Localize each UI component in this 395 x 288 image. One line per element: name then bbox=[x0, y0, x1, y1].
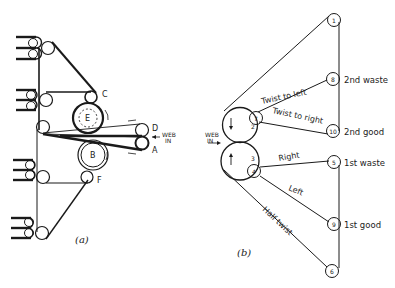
node-10: 10 bbox=[329, 128, 337, 135]
web-path-diagram: C E D B A F WEB IN (a) bbox=[0, 0, 395, 288]
output-label-1st-waste: 1st waste bbox=[344, 158, 385, 168]
panel-a bbox=[11, 37, 160, 240]
node-6: 6 bbox=[330, 268, 334, 275]
roller-label-f: F bbox=[97, 176, 102, 185]
output-label-2nd-good: 2nd good bbox=[344, 127, 384, 137]
roller-label-d: D bbox=[152, 124, 158, 133]
path-label-twist-right: Twist to right bbox=[271, 106, 324, 126]
path-label-twist-left: Twist to left bbox=[260, 88, 308, 107]
output-label-1st-good: 1st good bbox=[344, 220, 381, 230]
reel-stack-3 bbox=[13, 160, 35, 180]
panel-b bbox=[208, 14, 341, 278]
node-9: 9 bbox=[332, 221, 336, 228]
web-in-label-a-line2: IN bbox=[165, 137, 171, 144]
web-in-label-b-line2: IN bbox=[207, 137, 213, 144]
output-label-2nd-waste: 2nd waste bbox=[344, 75, 388, 85]
roller-label-b: B bbox=[90, 151, 96, 160]
node-3: 3 bbox=[251, 155, 255, 162]
roller-label-e: E bbox=[85, 114, 90, 123]
reel-stack-4 bbox=[11, 218, 33, 238]
node-2: 2 bbox=[251, 123, 255, 130]
roller-label-c: C bbox=[102, 90, 108, 99]
node-1: 1 bbox=[332, 17, 336, 24]
path-label-right: Right bbox=[278, 150, 300, 163]
path-label-half-twist: Half twist bbox=[261, 205, 295, 237]
roller-label-a: A bbox=[152, 146, 158, 155]
node-4: 4 bbox=[252, 168, 256, 175]
node-7: 7 bbox=[254, 115, 258, 122]
node-5: 5 bbox=[332, 159, 336, 166]
caption-a: (a) bbox=[75, 234, 89, 245]
node-8: 8 bbox=[331, 76, 335, 83]
caption-b: (b) bbox=[237, 247, 251, 258]
